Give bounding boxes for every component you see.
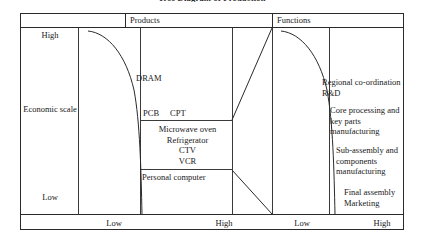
x-axis-label-products-low: Low	[84, 216, 144, 230]
connector-upper-diagonal	[232, 28, 272, 120]
x-axis-label-products-high: High	[194, 216, 254, 230]
x-axis-label-functions-high: High	[352, 216, 412, 230]
curve-overlay	[0, 0, 424, 244]
diagram-page: Tree Diagram of Production Products Func…	[0, 0, 424, 244]
x-axis-label-functions-low: Low	[272, 216, 332, 230]
functions-curve	[281, 31, 335, 214]
x-axis-band: Low High Low High	[20, 214, 404, 230]
products-curve	[88, 31, 142, 214]
connector-lower-diagonal	[232, 170, 272, 214]
